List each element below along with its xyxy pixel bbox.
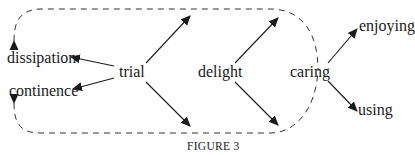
arrow-trial-to-dissipation: [71, 57, 114, 66]
arrow-caring-to-enjoying: [328, 29, 357, 63]
node-dissipation: dissipation: [7, 50, 76, 66]
node-continence: continence: [9, 83, 78, 99]
figure-caption: FIGURE 3: [187, 140, 240, 152]
arrow-trial-to-continence: [73, 78, 114, 89]
node-delight: delight: [198, 64, 242, 80]
node-caring: caring: [290, 64, 330, 80]
arrow-delight-down: [235, 82, 278, 125]
arrow-delight-up: [235, 18, 278, 63]
node-using: using: [358, 102, 393, 118]
node-enjoying: enjoying: [359, 18, 415, 34]
arrow-caring-to-using: [328, 81, 357, 111]
arrow-trial-down: [146, 82, 190, 126]
node-trial: trial: [119, 64, 145, 80]
arrow-trial-up: [146, 16, 190, 63]
